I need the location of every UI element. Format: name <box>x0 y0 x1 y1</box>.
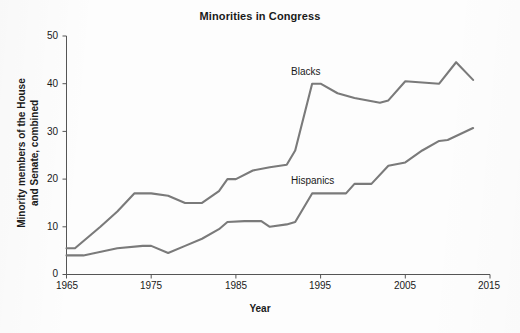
x-axis-ticks <box>67 275 491 279</box>
y-axis-ticks <box>63 36 67 275</box>
series-line-hispanics <box>67 128 474 255</box>
chart-container: Minorities in Congress Minority members … <box>0 0 520 333</box>
plot-area <box>0 0 520 333</box>
series-line-blacks <box>67 62 474 248</box>
